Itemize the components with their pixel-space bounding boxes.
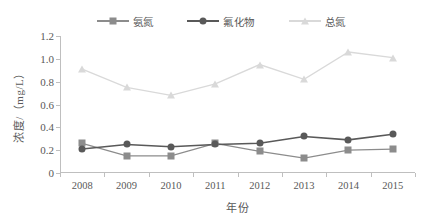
x-tick — [326, 173, 327, 177]
legend-label: 总氮 — [325, 14, 346, 29]
data-point — [300, 76, 308, 83]
data-point — [212, 141, 219, 148]
data-point — [345, 147, 352, 154]
x-tick-label: 2015 — [382, 180, 403, 191]
x-tick — [60, 173, 61, 177]
y-tick-label: 0.4 — [40, 121, 54, 133]
data-point — [167, 143, 174, 150]
data-point — [167, 152, 174, 159]
data-point — [79, 146, 86, 153]
x-tick — [104, 173, 105, 177]
data-point — [345, 136, 352, 143]
legend-item-总氮[interactable]: 总氮 — [289, 14, 346, 29]
series-lines — [60, 36, 415, 173]
x-tick — [371, 173, 372, 177]
data-point — [344, 48, 352, 55]
legend-label: 氨氮 — [133, 14, 154, 29]
data-point — [123, 141, 130, 148]
x-tick-label: 2011 — [205, 180, 226, 191]
concentration-trend-chart: 氨氮氟化物总氮 浓度/（mg/L） 00.20.40.60.81.01.2 20… — [0, 0, 442, 221]
data-point — [78, 66, 86, 73]
data-point — [167, 92, 175, 99]
legend-marker-square-icon — [109, 18, 116, 25]
legend-label: 氟化物 — [223, 14, 254, 29]
y-tick-label: 1.2 — [40, 30, 54, 42]
x-tick-label: 2014 — [338, 180, 359, 191]
data-point — [389, 54, 397, 61]
data-point — [389, 131, 396, 138]
legend-swatch — [97, 20, 129, 22]
x-tick-label: 2008 — [72, 180, 93, 191]
legend-item-氟化物[interactable]: 氟化物 — [187, 14, 254, 29]
legend-marker-triangle-icon — [301, 18, 309, 25]
legend-swatch — [289, 20, 321, 22]
data-point — [389, 146, 396, 153]
plot-area: 00.20.40.60.81.01.2 20082009201020112012… — [60, 36, 415, 173]
y-tick-label: 0 — [49, 167, 55, 179]
x-tick — [149, 173, 150, 177]
data-point — [301, 155, 308, 162]
chart-legend: 氨氮氟化物总氮 — [0, 11, 442, 31]
data-point — [123, 84, 131, 91]
x-tick — [193, 173, 194, 177]
x-tick-label: 2013 — [294, 180, 315, 191]
y-tick-label: 0.2 — [40, 144, 54, 156]
data-point — [256, 148, 263, 155]
y-axis-title-text: 浓度/（mg/L） — [10, 67, 26, 142]
data-point — [256, 140, 263, 147]
x-axis-title: 年份 — [60, 199, 415, 215]
y-tick-label: 0.6 — [40, 99, 54, 111]
legend-item-氨氮[interactable]: 氨氮 — [97, 14, 154, 29]
y-axis-title: 浓度/（mg/L） — [10, 36, 26, 173]
legend-swatch — [187, 20, 219, 22]
y-tick-label: 0.8 — [40, 76, 54, 88]
x-tick-label: 2010 — [160, 180, 181, 191]
x-tick — [415, 173, 416, 177]
x-tick — [282, 173, 283, 177]
legend-marker-circle-icon — [200, 18, 207, 25]
x-tick — [238, 173, 239, 177]
data-point — [301, 133, 308, 140]
data-point — [256, 61, 264, 68]
x-tick-label: 2009 — [116, 180, 137, 191]
y-tick-label: 1.0 — [40, 53, 54, 65]
data-point — [211, 80, 219, 87]
data-point — [123, 152, 130, 159]
x-tick-label: 2012 — [249, 180, 270, 191]
